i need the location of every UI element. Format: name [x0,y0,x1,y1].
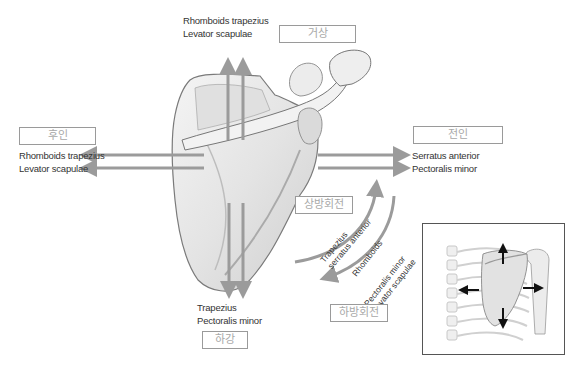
retraction-muscles: Rhomboids trapezius Levator scapulae [19,149,104,175]
depression-muscles: Trapezius Pectoralis minor [197,301,262,327]
spine-column [447,246,457,340]
retraction-box: 후인 [19,127,96,145]
muscle-label: Levator scapulae [19,162,104,175]
muscle-label: Pectoralis minor [412,162,479,175]
protraction-muscles: Serratus anterior Pectoralis minor [412,149,479,175]
humerus [526,249,549,334]
upward-rotation-box: 상방회전 [295,196,353,214]
muscle-label: Trapezius [197,301,262,314]
muscle-label: Rhomboids trapezius [183,14,268,27]
protraction-box: 전인 [413,126,503,144]
elevation-muscles: Rhomboids trapezius Levator scapulae [183,14,268,40]
depression-box: 하강 [202,331,248,349]
protraction-arrows [318,155,402,168]
downward-rotation-box: 하방회전 [330,304,388,322]
inset-figure [422,223,565,355]
muscle-label: Levator scapulae [183,27,268,40]
elevation-box: 거상 [279,25,356,43]
muscle-label: Serratus anterior [412,149,479,162]
muscle-label: Rhomboids trapezius [19,149,104,162]
muscle-label: Pectoralis minor [197,314,262,327]
inset-scapula-illustration [423,224,564,354]
inset-scapula [482,250,528,326]
